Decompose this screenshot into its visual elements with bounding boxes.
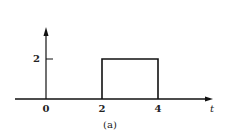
x-tick-label-4: 4 [155, 103, 162, 114]
y-tick-label-2: 2 [33, 53, 40, 64]
x-tick-label-0: 0 [43, 103, 50, 114]
y-axis-arrow-icon [44, 27, 49, 36]
figure: 2 0 2 4 t (a) [0, 0, 227, 136]
pulse-line [102, 59, 158, 99]
x-tick-label-2: 2 [99, 103, 106, 114]
pulse-chart: 2 0 2 4 t (a) [0, 0, 227, 136]
x-axis-label: t [210, 103, 215, 114]
figure-caption: (a) [103, 119, 117, 130]
x-axis-arrow-icon [205, 97, 213, 102]
